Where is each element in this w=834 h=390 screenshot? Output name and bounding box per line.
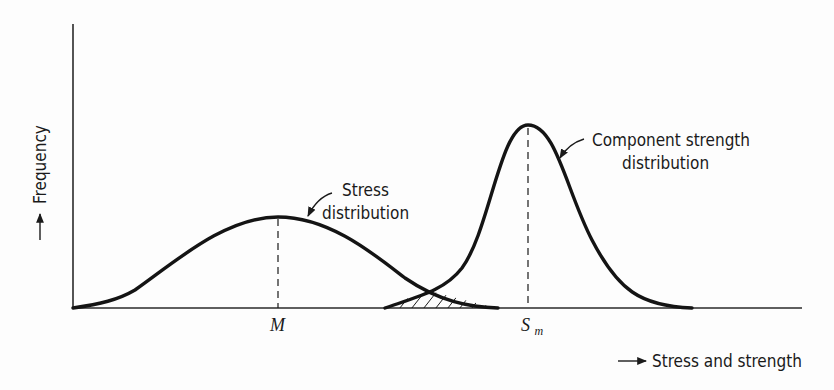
strength-mean-sub: m	[535, 324, 544, 338]
x-axis-label-group: Stress and strength	[618, 351, 802, 371]
y-axis-label: Frequency	[30, 125, 50, 204]
strength-mean-main: S	[521, 315, 530, 335]
strength-mean-label: S m	[521, 315, 544, 338]
stress-label-line1: Stress	[342, 180, 389, 200]
stress-distribution-curve	[73, 217, 498, 308]
strength-label-line2: distribution	[622, 153, 709, 173]
stress-label-line2: distribution	[322, 203, 409, 223]
strength-label-leader	[560, 139, 584, 158]
strength-label-line1: Component strength	[592, 130, 750, 150]
stress-mean-label: M	[269, 315, 286, 335]
interference-diagram: Stress distribution Component strength d…	[0, 0, 834, 390]
x-axis-label: Stress and strength	[652, 351, 802, 371]
y-axis-label-group: Frequency	[30, 125, 50, 240]
